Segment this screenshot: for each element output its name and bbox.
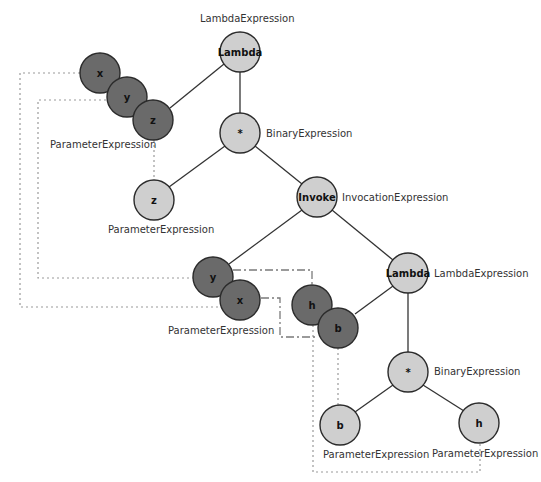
lambda-inner-type: LambdaExpression [434,268,529,279]
parameter-group-hb: h b [292,285,358,348]
arg-y-label: y [210,272,217,283]
edge-invoke-lambda2 [332,210,393,260]
h-param-type: ParameterExpression [432,448,538,459]
args-yx-type: ParameterExpression [168,325,274,336]
arg-x-label: x [237,295,244,306]
h-param-label: h [475,418,482,429]
lambda-node-root: LambdaExpression Lambda [200,13,295,72]
edge-mul1-zparam [169,146,225,187]
param-z-label: z [150,115,156,126]
binary-2-label: * [405,367,411,378]
z-parameter-node: z ParameterExpression [108,180,214,235]
b-param-label: b [336,420,343,431]
argument-group-yx: y x ParameterExpression [168,257,274,336]
expression-tree-diagram: LambdaExpression Lambda x y z ParameterE… [0,0,541,482]
lambda-root-label: Lambda [218,47,263,58]
h-parameter-node: h ParameterExpression [432,403,538,459]
param-y-label: y [124,92,131,103]
edge-lambda2-params [355,286,393,314]
z-param-label: z [151,195,157,206]
lambda-root-type: LambdaExpression [200,13,295,24]
lambda-inner-label: Lambda [386,268,431,279]
param-h-label: h [308,300,315,311]
b-param-type: ParameterExpression [323,449,429,460]
b-parameter-node: b ParameterExpression [320,405,429,460]
binary-2-type: BinaryExpression [434,366,520,377]
edge-mul2-hparam [423,385,464,411]
invoke-node: Invoke InvocationExpression [297,177,448,217]
param-b-label: b [334,323,341,334]
invoke-type: InvocationExpression [342,192,448,203]
edge-mul1-invoke [255,146,302,184]
lambda-node-inner: Lambda LambdaExpression [386,253,529,293]
edge-invoke-args [229,210,302,264]
params-xyz-type: ParameterExpression [50,139,156,150]
binary-node-2: * BinaryExpression [388,352,520,392]
invoke-label: Invoke [298,192,336,203]
param-x-label: x [97,68,104,79]
binary-node-1: * BinaryExpression [220,113,352,153]
binary-1-type: BinaryExpression [266,128,352,139]
binary-1-label: * [237,128,243,139]
z-param-type: ParameterExpression [108,224,214,235]
parameter-group-xyz: x y z ParameterExpression [50,53,173,150]
edge-lambda1-params [170,64,224,108]
edge-mul2-bparam [355,385,393,412]
